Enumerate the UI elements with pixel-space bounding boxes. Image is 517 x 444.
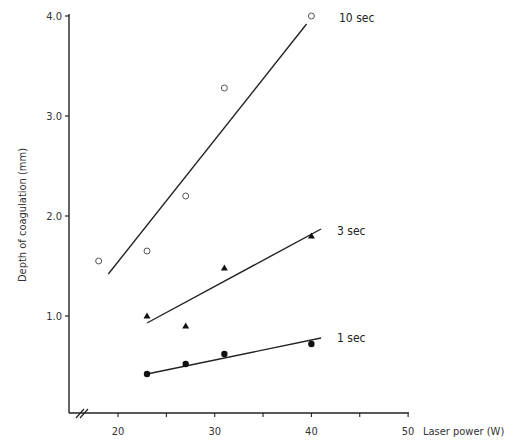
data-point-open-circle	[144, 248, 150, 254]
x-tick-label: 50	[402, 425, 415, 438]
data-point-triangle	[182, 323, 189, 329]
data-point-filled-circle	[308, 341, 314, 347]
y-tick-label: 1.0	[46, 310, 62, 323]
series-label: 1 sec	[337, 331, 366, 345]
x-tick-label: 40	[305, 425, 318, 438]
data-point-filled-circle	[182, 361, 188, 367]
axes: 1.02.03.04.020304050Laser power (W)Depth…	[16, 10, 504, 438]
data-point-filled-circle	[221, 351, 227, 357]
data-point-open-circle	[96, 258, 102, 264]
fit-line	[147, 338, 321, 374]
x-axis-label: Laser power (W)	[423, 425, 504, 438]
series-label: 10 sec	[339, 11, 374, 25]
series-label: 3 sec	[337, 224, 366, 238]
y-tick-label: 2.0	[46, 210, 62, 223]
y-tick-label: 3.0	[46, 110, 62, 123]
fit-line	[108, 24, 306, 274]
data-point-open-circle	[308, 13, 314, 19]
data-point-open-circle	[221, 85, 227, 91]
series-10-sec: 10 sec	[96, 11, 375, 274]
x-tick-label: 20	[112, 425, 125, 438]
data-point-triangle	[221, 265, 228, 271]
data-point-triangle	[144, 313, 151, 319]
x-tick-label: 30	[208, 425, 221, 438]
series-1-sec: 1 sec	[144, 331, 366, 377]
fit-line	[147, 229, 321, 323]
data-point-open-circle	[183, 193, 189, 199]
y-axis-label: Depth of coagulation (mm)	[16, 148, 29, 282]
chart-canvas: 1.02.03.04.020304050Laser power (W)Depth…	[0, 0, 517, 444]
series-3-sec: 3 sec	[144, 224, 366, 329]
data-point-filled-circle	[144, 371, 150, 377]
y-tick-label: 4.0	[46, 10, 62, 23]
